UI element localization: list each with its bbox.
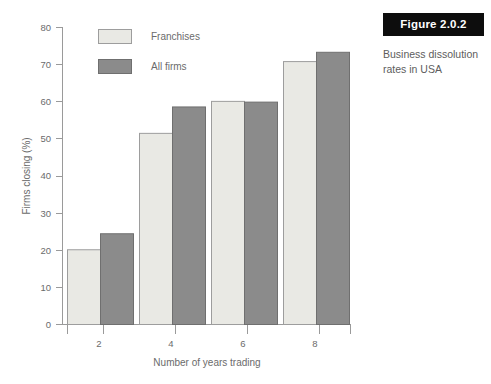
y-tick-label-70: 70 [40, 59, 51, 70]
chart-legend: Franchises All firms [98, 27, 200, 87]
bar-allfirms-2 [101, 234, 134, 325]
y-tick-label-80: 80 [40, 22, 51, 33]
y-tick-label-20: 20 [40, 245, 51, 256]
bar-allfirms-6 [245, 102, 278, 324]
x-tick-label-4: 4 [168, 338, 173, 349]
figure-number-badge: Figure 2.0.2 [383, 13, 484, 36]
bar-franchises-4 [140, 133, 173, 324]
legend-swatch-all-firms [98, 59, 132, 74]
figure-caption: Business dissolution rates in USA [383, 47, 487, 76]
legend-label-franchises: Franchises [151, 31, 200, 42]
bar-franchises-8 [284, 62, 317, 325]
x-tick-marks [68, 325, 351, 335]
bar-allfirms-8 [317, 52, 350, 324]
bar-franchises-6 [212, 101, 245, 324]
x-tick-label-6: 6 [240, 338, 245, 349]
y-tick-label-40: 40 [40, 170, 51, 181]
y-tick-label-30: 30 [40, 208, 51, 219]
bar-chart: 80 70 60 50 40 30 20 10 0 Firms closing … [0, 0, 383, 384]
y-tick-label-50: 50 [40, 133, 51, 144]
legend-swatch-franchises [98, 29, 132, 44]
x-tick-label-2: 2 [96, 338, 101, 349]
legend-item-all-firms: All firms [98, 57, 200, 75]
x-tick-label-8: 8 [312, 338, 317, 349]
x-axis-title: Number of years trading [153, 357, 260, 368]
figure-panel: Figure 2.0.2 Business dissolution rates … [383, 13, 488, 76]
legend-label-all-firms: All firms [151, 61, 187, 72]
bar-allfirms-4 [173, 107, 206, 325]
y-tick-label-0: 0 [46, 319, 51, 330]
y-axis-title: Firms closing (%) [21, 137, 32, 214]
y-tick-label-10: 10 [40, 282, 51, 293]
bar-franchises-2 [68, 250, 101, 325]
y-tick-marks [56, 28, 63, 325]
y-tick-label-60: 60 [40, 96, 51, 107]
legend-item-franchises: Franchises [98, 27, 200, 45]
